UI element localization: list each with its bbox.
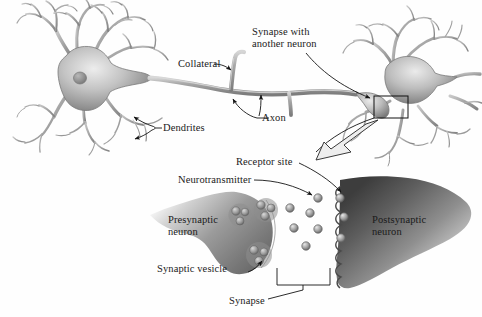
label-synapse-with-another-neuron-line2: another neuron [252,38,317,50]
label-axon: Axon [262,112,286,124]
neurotransmitter-dot [336,194,344,202]
label-presynaptic-neuron-line1: Presynaptic [168,214,218,226]
magnification-arrow [316,120,378,160]
neurotransmitter-dot [340,213,348,221]
right-neuron [343,6,482,166]
neurotransmitter-dot [337,234,345,242]
axon-collateral-branch [231,52,244,90]
upper-panel-callouts [134,53,374,152]
axon-leader-left [233,99,257,118]
label-synapse-with-another-neuron-line1: Synapse with [252,26,310,38]
dendrites-bracket [152,126,155,130]
neurotransmitter-dot [314,194,322,202]
neurotransmitter-dot [306,209,314,217]
label-collateral: Collateral [178,58,220,70]
right-neuron-dendrites-lower [343,101,470,166]
axon-collateral-branch-down [289,93,291,115]
axon-leader-right [259,95,261,116]
vesicle-cluster [229,204,252,227]
label-neurotransmitter: Neurotransmitter [178,174,251,186]
neurotransmitter-dot [286,204,294,212]
dendrites-leader-lower [135,130,152,139]
label-postsynaptic-neuron-line1: Postsynaptic [372,214,426,226]
label-presynaptic-neuron-line2: neuron [168,226,198,238]
label-receptor-site: Receptor site [236,156,292,168]
label-synapse: Synapse [229,295,265,307]
label-postsynaptic-neuron-line2: neuron [372,226,402,238]
left-neuron-soma [58,46,152,110]
vesicle-cluster [254,198,278,222]
neuron-synapse-figure: Collateral Synapse with another neuron A… [0,0,482,317]
label-synaptic-vesicle: Synaptic vesicle [157,263,227,275]
neurotransmitter-dot [302,242,310,250]
postsynaptic-neuron-body [336,176,471,288]
label-dendrites: Dendrites [163,122,205,134]
neurotransmitter-dot [314,225,322,233]
neurotransmitter-dot [290,224,298,232]
left-neuron-nucleus [74,72,87,84]
